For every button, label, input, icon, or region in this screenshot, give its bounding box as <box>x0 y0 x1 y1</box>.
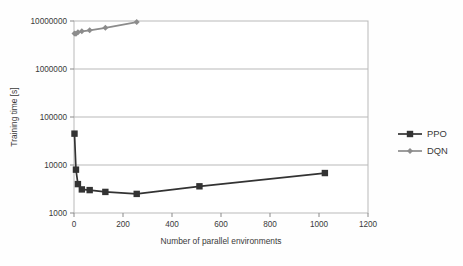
y-axis-title: Training time [s] <box>9 87 19 146</box>
legend-label: PPO <box>427 128 447 139</box>
x-tick-label: 600 <box>214 220 228 229</box>
x-axis-title: Number of parallel environments <box>160 236 281 246</box>
x-tick-label: 1200 <box>359 220 378 229</box>
x-tick-label: 0 <box>72 220 77 229</box>
x-tick-label: 1000 <box>310 220 329 229</box>
x-tick-label: 400 <box>165 220 179 229</box>
y-tick-label: 10000000 <box>31 17 68 26</box>
data-point <box>102 189 108 195</box>
data-point <box>79 186 85 192</box>
legend-label: DQN <box>427 145 448 156</box>
data-point <box>73 166 79 172</box>
y-tick-label: 1000000 <box>35 65 67 74</box>
legend-marker <box>407 131 413 137</box>
x-tick-label: 800 <box>263 220 277 229</box>
y-tick-label: 1000 <box>49 209 68 218</box>
data-point <box>322 170 328 176</box>
y-tick-label: 10000 <box>44 161 67 170</box>
data-point <box>196 183 202 189</box>
data-point <box>134 191 140 197</box>
chart-container: 100010000100000100000010000000 020040060… <box>0 0 463 266</box>
y-tick-label: 100000 <box>40 113 68 122</box>
x-tick-label: 200 <box>116 220 130 229</box>
data-point <box>71 130 77 136</box>
line-chart: 100010000100000100000010000000 020040060… <box>0 0 463 266</box>
data-point <box>86 187 92 193</box>
